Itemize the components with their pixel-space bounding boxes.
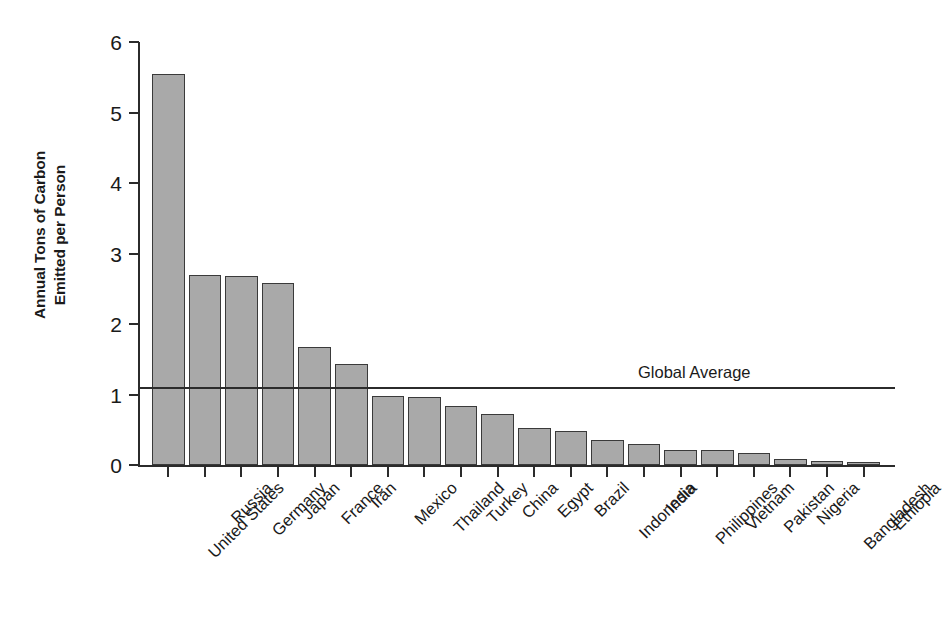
y-axis-tick-label: 6 bbox=[110, 32, 122, 53]
bar bbox=[152, 74, 185, 465]
y-axis-tick-label: 5 bbox=[110, 102, 122, 123]
y-axis-tick-label: 4 bbox=[110, 173, 122, 194]
global-average-line bbox=[138, 387, 895, 389]
bar bbox=[225, 276, 258, 465]
y-axis-title: Annual Tons of Carbon Emitted per Person bbox=[0, 0, 100, 470]
global-average-label: Global Average bbox=[638, 364, 751, 381]
x-axis-labels: United StatesRussiaGermanyJapanFranceIra… bbox=[141, 465, 901, 620]
bar bbox=[555, 431, 588, 465]
y-axis-tick: 2 bbox=[129, 323, 139, 325]
bar bbox=[372, 396, 405, 465]
y-axis-tick: 0 bbox=[129, 464, 139, 466]
bar bbox=[481, 414, 514, 465]
y-axis-tick-label: 3 bbox=[110, 243, 122, 264]
y-axis-title-line-2: Emitted per Person bbox=[50, 151, 70, 319]
bar bbox=[189, 275, 222, 465]
y-axis-tick-label: 1 bbox=[110, 384, 122, 405]
y-axis-tick: 5 bbox=[129, 112, 139, 114]
bar bbox=[262, 283, 295, 465]
bar bbox=[335, 364, 368, 465]
y-axis-tick-label: 2 bbox=[110, 314, 122, 335]
bar bbox=[298, 347, 331, 465]
x-axis-label: Brazil bbox=[591, 479, 632, 520]
bar bbox=[664, 450, 697, 466]
y-axis-tick: 1 bbox=[129, 394, 139, 396]
y-axis-tick: 6 bbox=[129, 41, 139, 43]
bar bbox=[445, 406, 478, 465]
bar bbox=[738, 453, 771, 465]
bar bbox=[628, 444, 661, 465]
y-axis-tick: 4 bbox=[129, 182, 139, 184]
y-axis-title-line-1: Annual Tons of Carbon bbox=[30, 151, 50, 319]
bar bbox=[591, 440, 624, 465]
bar bbox=[408, 397, 441, 465]
x-axis-label: Egypt bbox=[555, 479, 597, 521]
y-axis-tick-label: 0 bbox=[110, 455, 122, 476]
x-axis-label: India bbox=[663, 479, 700, 516]
bar bbox=[701, 450, 734, 465]
plot-area: 0123456 Global Average bbox=[141, 42, 895, 465]
y-axis-tick: 3 bbox=[129, 253, 139, 255]
bar bbox=[518, 428, 551, 465]
